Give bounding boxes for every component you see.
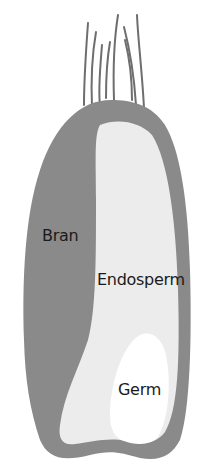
endosperm-label: Endosperm (97, 270, 185, 289)
grain-kernel-diagram: Bran Endosperm Germ (0, 0, 222, 476)
kernel-illustration (0, 0, 222, 476)
germ-label: Germ (118, 380, 161, 399)
brush-hairs (84, 15, 144, 108)
bran-label: Bran (42, 226, 78, 245)
